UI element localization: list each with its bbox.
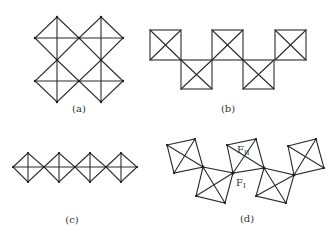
panel-c-label: (c) — [65, 214, 79, 225]
panel-c-diagram — [12, 152, 138, 183]
f-terminal-label: FII — [237, 144, 250, 157]
panel-d-label: (d) — [240, 213, 254, 224]
panel-a-label: (a) — [72, 103, 86, 114]
f-bridging-label: FI — [236, 177, 246, 190]
octahedra-figure: (a) (b) (c) — [0, 0, 334, 236]
panel-a-diagram — [34, 16, 124, 103]
panel-d-diagram — [166, 138, 325, 204]
panel-b-diagram — [150, 30, 306, 89]
panel-b-label: (b) — [221, 103, 235, 114]
